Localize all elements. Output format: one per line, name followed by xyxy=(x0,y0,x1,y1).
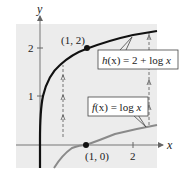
y-axis-label: y xyxy=(36,2,43,16)
h-label: h(x) = 2 + log x xyxy=(102,54,171,67)
point-label-1-2: (1, 2) xyxy=(61,34,85,47)
y-tick-label-2: 2 xyxy=(28,42,34,54)
y-tick-label-1: 1 xyxy=(28,90,34,102)
chart: x y 2 1 2 (1, 2) (1, 0) h(x) = 2 + log x… xyxy=(0,0,187,179)
x-tick-label-2: 2 xyxy=(130,150,136,162)
point-1-0 xyxy=(83,142,89,148)
f-label: f(x) = log x xyxy=(92,101,141,114)
point-label-1-0: (1, 0) xyxy=(85,150,109,163)
point-1-2 xyxy=(84,45,90,51)
x-axis-label: x xyxy=(166,138,173,152)
